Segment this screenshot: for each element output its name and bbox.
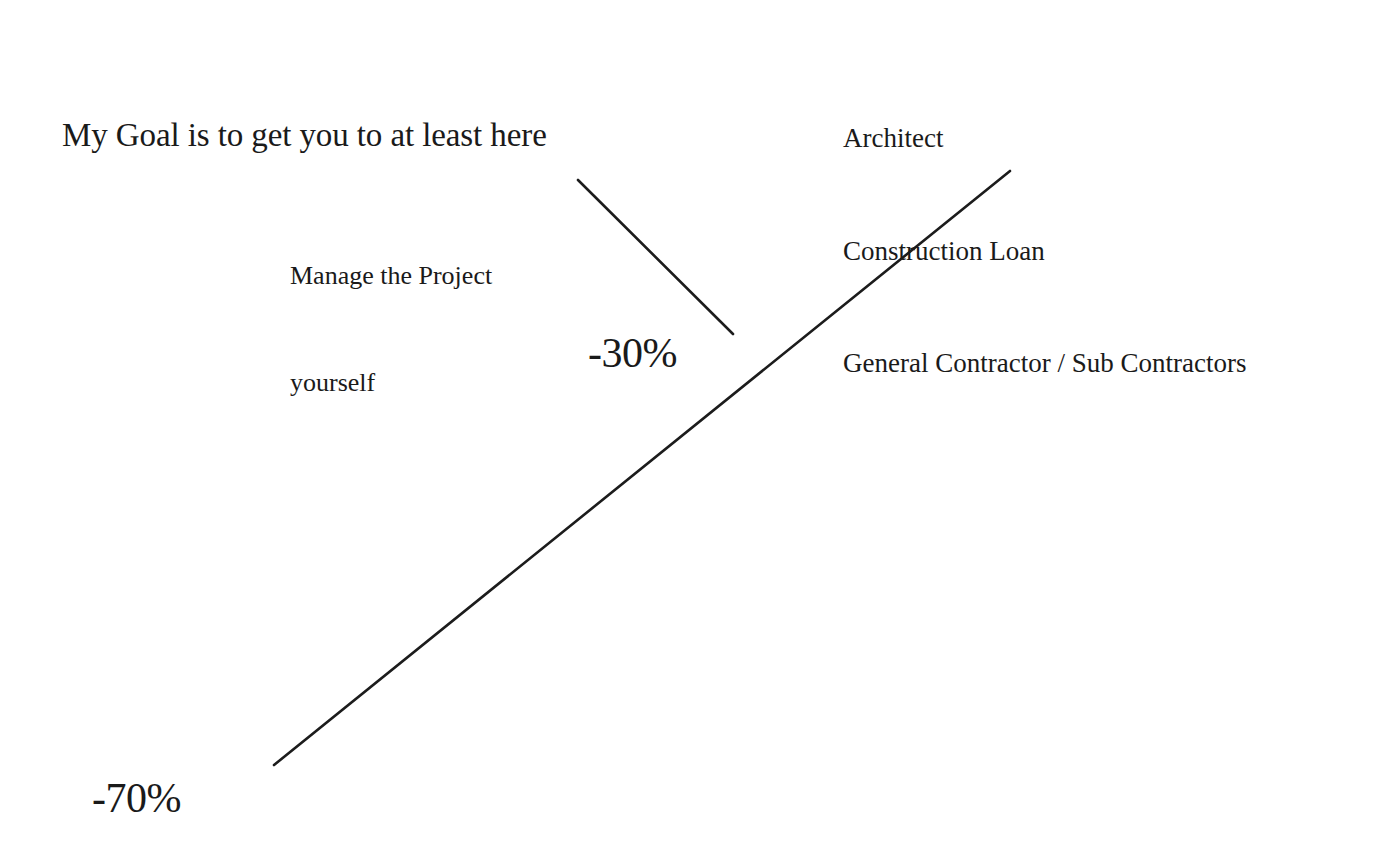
annotation-architect: Architect <box>843 120 1246 158</box>
annotation-manage-project-line-1: Manage the Project <box>290 258 492 294</box>
annotation-professional-services: Architect Construction Loan General Cont… <box>843 45 1246 458</box>
savings-label-lower: -70% <box>92 777 181 819</box>
annotation-construction-loan: Construction Loan <box>843 233 1246 271</box>
diagram-canvas: My Goal is to get you to at least here M… <box>0 0 1386 847</box>
annotation-manage-project: Manage the Project yourself <box>290 186 492 473</box>
page-title: My Goal is to get you to at least here <box>62 119 547 152</box>
leader-line-manage-project <box>578 180 733 334</box>
savings-label-upper: -30% <box>588 332 677 374</box>
annotation-manage-project-line-2: yourself <box>290 365 492 401</box>
annotation-general-contractor: General Contractor / Sub Contractors <box>843 345 1246 383</box>
